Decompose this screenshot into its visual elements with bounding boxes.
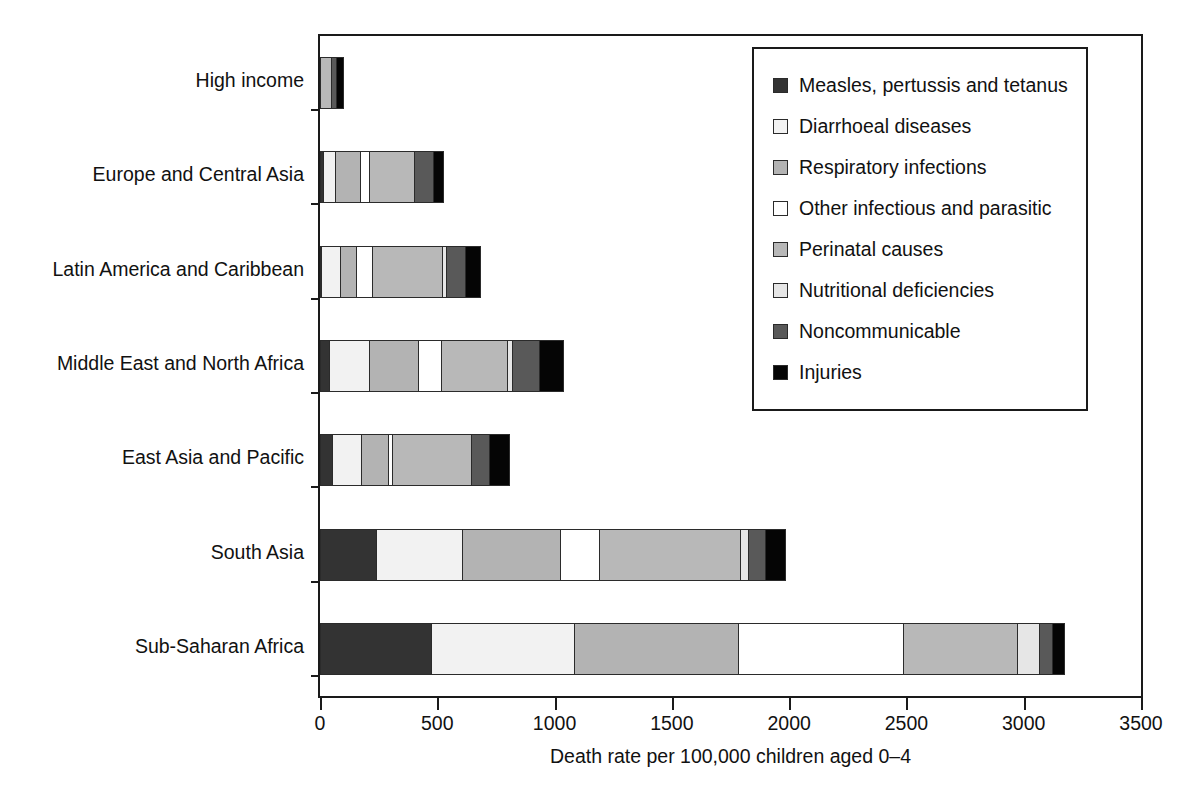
bar-segment [356, 246, 373, 298]
legend-label: Injuries [799, 363, 862, 383]
bar-segment [369, 151, 416, 203]
bar-segment [441, 340, 508, 392]
legend-item[interactable]: Respiratory infections [754, 147, 1086, 188]
x-axis-tick [789, 698, 791, 710]
x-axis-tick-label: 500 [421, 714, 454, 734]
bar-segment [446, 246, 466, 298]
legend-swatch-icon [773, 324, 788, 339]
y-axis-tick [311, 203, 320, 205]
x-axis-tick [1141, 698, 1143, 710]
bar-segment [320, 529, 377, 581]
y-axis-tick [311, 486, 320, 488]
legend-swatch-icon [773, 78, 788, 93]
legend-label: Other infectious and parasitic [799, 199, 1052, 219]
chart-root: High incomeEurope and Central AsiaLatin … [0, 0, 1194, 798]
bar-segment [765, 529, 786, 581]
bar-segment [418, 340, 443, 392]
y-axis-tick [311, 675, 320, 677]
y-axis-label: Europe and Central Asia [4, 165, 304, 185]
legend-swatch-icon [773, 365, 788, 380]
bar-segment [369, 340, 419, 392]
y-axis-label: East Asia and Pacific [4, 448, 304, 468]
chart-legend: Measles, pertussis and tetanusDiarrhoeal… [752, 47, 1088, 411]
y-axis-tick [311, 298, 320, 300]
x-axis-tick-label: 1500 [650, 714, 693, 734]
bar-segment [560, 529, 601, 581]
x-axis-tick [320, 698, 322, 710]
legend-swatch-icon [773, 242, 788, 257]
bar-segment [903, 623, 1018, 675]
bar-segment [340, 246, 357, 298]
legend-label: Nutritional deficiencies [799, 281, 994, 301]
x-axis-tick [906, 698, 908, 710]
legend-item[interactable]: Noncommunicable [754, 311, 1086, 352]
x-axis-tick [672, 698, 674, 710]
bar-segment [329, 340, 371, 392]
bar-segment [335, 151, 361, 203]
bar-segment [465, 246, 481, 298]
x-axis-tick-label: 3500 [1119, 714, 1162, 734]
legend-label: Diarrhoeal diseases [799, 117, 971, 137]
legend-item[interactable]: Injuries [754, 352, 1086, 393]
x-axis-tick-label: 1000 [533, 714, 576, 734]
legend-item[interactable]: Nutritional deficiencies [754, 270, 1086, 311]
bar-segment [738, 623, 905, 675]
bar-segment [1017, 623, 1041, 675]
y-axis-label: South Asia [4, 543, 304, 563]
legend-item[interactable]: Measles, pertussis and tetanus [754, 65, 1086, 106]
bar-segment [539, 340, 564, 392]
bar-high-income[interactable] [320, 57, 344, 109]
y-axis-label: Sub-Saharan Africa [4, 637, 304, 657]
x-axis-ticks: 0500100015002000250030003500 [318, 698, 1143, 712]
bar-segment [489, 434, 510, 486]
legend-item[interactable]: Other infectious and parasitic [754, 188, 1086, 229]
bar-segment [376, 529, 464, 581]
y-axis-tick [311, 109, 320, 111]
bar-latin-america-and-caribbean[interactable] [320, 246, 481, 298]
x-axis-tick-label: 2000 [767, 714, 810, 734]
y-axis-label: Latin America and Caribbean [4, 260, 304, 280]
x-axis-tick [555, 698, 557, 710]
x-axis-tick [1024, 698, 1026, 710]
legend-label: Perinatal causes [799, 240, 943, 260]
x-axis-tick [437, 698, 439, 710]
legend-label: Noncommunicable [799, 322, 961, 342]
bar-east-asia-and-pacific[interactable] [320, 434, 510, 486]
legend-item[interactable]: Diarrhoeal diseases [754, 106, 1086, 147]
legend-label: Respiratory infections [799, 158, 987, 178]
bar-segment [361, 434, 389, 486]
bar-segment [414, 151, 434, 203]
bar-segment [321, 246, 342, 298]
bar-segment [332, 434, 363, 486]
bar-segment [336, 57, 344, 109]
legend-swatch-icon [773, 201, 788, 216]
bar-segment [320, 623, 432, 675]
y-axis-label: High income [4, 71, 304, 91]
bar-segment [471, 434, 490, 486]
x-axis-tick-label: 3000 [1002, 714, 1045, 734]
bar-segment [574, 623, 739, 675]
y-axis-tick [311, 581, 320, 583]
bar-segment [372, 246, 444, 298]
bar-segment [462, 529, 561, 581]
bar-segment [748, 529, 767, 581]
bar-middle-east-and-north-africa[interactable] [320, 340, 564, 392]
legend-swatch-icon [773, 283, 788, 298]
x-axis-title: Death rate per 100,000 children aged 0–4 [318, 745, 1143, 768]
legend-label: Measles, pertussis and tetanus [799, 76, 1068, 96]
bar-segment [599, 529, 741, 581]
legend-swatch-icon [773, 160, 788, 175]
y-axis-label: Middle East and North Africa [4, 354, 304, 374]
bar-europe-and-central-asia[interactable] [320, 151, 444, 203]
bar-segment [431, 623, 576, 675]
x-axis-tick-label: 2500 [885, 714, 928, 734]
bar-segment [392, 434, 473, 486]
y-axis-tick [311, 392, 320, 394]
legend-swatch-icon [773, 119, 788, 134]
bar-sub-saharan-africa[interactable] [320, 623, 1065, 675]
bar-segment [512, 340, 540, 392]
legend-item[interactable]: Perinatal causes [754, 229, 1086, 270]
bar-segment [1052, 623, 1065, 675]
bar-south-asia[interactable] [320, 529, 786, 581]
x-axis-tick-label: 0 [315, 714, 326, 734]
